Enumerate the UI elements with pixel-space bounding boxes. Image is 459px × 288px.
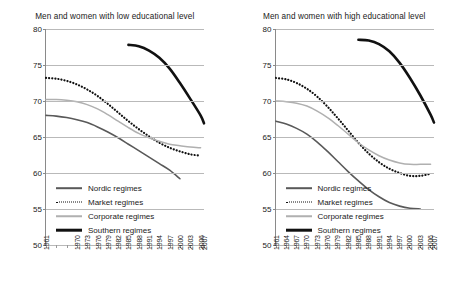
x-tick-label-1991: 1991 bbox=[375, 235, 382, 250]
gridline-y-70 bbox=[276, 101, 434, 102]
x-tick-label-1973: 1973 bbox=[84, 235, 91, 250]
legend-swatch-southern-icon bbox=[286, 226, 312, 234]
y-tick-mark bbox=[43, 101, 46, 102]
y-tick-mark bbox=[273, 29, 276, 30]
line-southern-regimes bbox=[128, 45, 204, 123]
y-tick-mark bbox=[43, 173, 46, 174]
legend-item-market: Market regimes bbox=[286, 195, 384, 209]
x-tick-label-1961: 1961 bbox=[43, 235, 50, 250]
y-tick-mark bbox=[43, 65, 46, 66]
y-tick-mark bbox=[273, 173, 276, 174]
chart-title-high: Men and women with high educational leve… bbox=[230, 12, 459, 21]
y-tick-mark bbox=[273, 101, 276, 102]
x-tick-label-1988: 1988 bbox=[365, 235, 372, 250]
x-tick-label-1964: 1964 bbox=[282, 235, 289, 250]
x-tick-label-1985: 1985 bbox=[354, 235, 361, 250]
legend-swatch-market-icon bbox=[286, 198, 312, 206]
x-tick-label-2003: 2003 bbox=[416, 235, 423, 250]
gridline-y-65 bbox=[46, 137, 204, 138]
y-tick-mark bbox=[43, 137, 46, 138]
gridline-y-75 bbox=[46, 65, 204, 66]
x-tick-label-1976: 1976 bbox=[94, 235, 101, 250]
legend-swatch-nordic-icon bbox=[56, 184, 82, 192]
line-market-regimes bbox=[276, 78, 431, 176]
legend-label-nordic: Nordic regimes bbox=[88, 184, 142, 193]
legend-item-nordic: Nordic regimes bbox=[286, 181, 384, 195]
legend-label-nordic: Nordic regimes bbox=[318, 184, 372, 193]
x-tick-label-1967: 1967 bbox=[293, 235, 300, 250]
gridline-y-75 bbox=[276, 65, 434, 66]
y-tick-label-60: 60 bbox=[263, 169, 272, 178]
line-corporate-regimes bbox=[276, 101, 431, 164]
x-tick-label-1994: 1994 bbox=[156, 235, 163, 250]
x-tick-label-2007: 2007 bbox=[201, 235, 208, 250]
legend-item-nordic: Nordic regimes bbox=[56, 181, 154, 195]
gridline-y-60 bbox=[46, 173, 204, 174]
x-tick-label-1976: 1976 bbox=[324, 235, 331, 250]
x-tick-label-2003: 2003 bbox=[187, 235, 194, 250]
y-tick-mark bbox=[273, 65, 276, 66]
legend-swatch-corporate-icon bbox=[286, 212, 312, 220]
x-tick-label-1994: 1994 bbox=[385, 235, 392, 250]
legend-item-market: Market regimes bbox=[56, 195, 154, 209]
y-tick-mark bbox=[43, 29, 46, 30]
legend-swatch-market-icon bbox=[56, 198, 82, 206]
x-tick-label-1979: 1979 bbox=[104, 235, 111, 250]
line-southern-regimes bbox=[358, 40, 434, 123]
y-tick-label-75: 75 bbox=[33, 61, 42, 70]
x-tick-label-1985: 1985 bbox=[125, 235, 132, 250]
legend-label-market: Market regimes bbox=[88, 198, 143, 207]
legend-label-corporate: Corporate regimes bbox=[88, 212, 154, 221]
y-tick-label-55: 55 bbox=[263, 205, 272, 214]
gridline-y-65 bbox=[276, 137, 434, 138]
x-tick-label-1997: 1997 bbox=[166, 235, 173, 250]
y-tick-label-80: 80 bbox=[33, 25, 42, 34]
x-tick-label-1997: 1997 bbox=[396, 235, 403, 250]
x-tick-label-1982: 1982 bbox=[344, 235, 351, 250]
legend-label-corporate: Corporate regimes bbox=[318, 212, 384, 221]
gridline-y-80 bbox=[276, 29, 434, 30]
legend-swatch-corporate-icon bbox=[56, 212, 82, 220]
y-tick-label-70: 70 bbox=[263, 97, 272, 106]
x-tick-mark bbox=[67, 245, 68, 248]
y-tick-label-50: 50 bbox=[263, 241, 272, 250]
x-tick-label-1970: 1970 bbox=[73, 235, 80, 250]
x-tick-label-1970: 1970 bbox=[303, 235, 310, 250]
gridline-y-80 bbox=[46, 29, 204, 30]
line-nordic-regimes bbox=[46, 115, 180, 178]
x-tick-label-1979: 1979 bbox=[334, 235, 341, 250]
y-tick-label-50: 50 bbox=[33, 241, 42, 250]
x-tick-label-1973: 1973 bbox=[313, 235, 320, 250]
plot-area-low: Nordic regimes Market regimes Corporate … bbox=[46, 29, 204, 245]
legend-label-southern: Southern regimes bbox=[318, 226, 381, 235]
x-tick-label-2007: 2007 bbox=[430, 235, 437, 250]
legend-swatch-southern-icon bbox=[56, 226, 82, 234]
y-tick-label-60: 60 bbox=[33, 169, 42, 178]
legend-item-corporate: Corporate regimes bbox=[286, 209, 384, 223]
y-tick-mark bbox=[273, 209, 276, 210]
gridline-y-55 bbox=[46, 209, 204, 210]
gridline-y-60 bbox=[276, 173, 434, 174]
legend-label-market: Market regimes bbox=[318, 198, 373, 207]
legend-item-corporate: Corporate regimes bbox=[56, 209, 154, 223]
x-tick-label-1988: 1988 bbox=[135, 235, 142, 250]
gridline-y-55 bbox=[276, 209, 434, 210]
x-tick-label-1991: 1991 bbox=[146, 235, 153, 250]
line-market-regimes bbox=[46, 78, 201, 156]
legend-swatch-nordic-icon bbox=[286, 184, 312, 192]
x-tick-label-2000: 2000 bbox=[406, 235, 413, 250]
y-tick-label-75: 75 bbox=[263, 61, 272, 70]
chart-pair: Men and women with low educational level… bbox=[0, 0, 459, 288]
x-tick-label-1961: 1961 bbox=[272, 235, 279, 250]
legend-label-southern: Southern regimes bbox=[88, 226, 151, 235]
chart-panel-low: Men and women with low educational level… bbox=[0, 0, 230, 288]
y-tick-mark bbox=[273, 137, 276, 138]
x-tick-label-1982: 1982 bbox=[115, 235, 122, 250]
y-tick-mark bbox=[43, 209, 46, 210]
x-tick-mark bbox=[56, 245, 57, 248]
plot-area-high: Nordic regimes Market regimes Corporate … bbox=[276, 29, 434, 245]
x-tick-label-2000: 2000 bbox=[176, 235, 183, 250]
y-tick-label-80: 80 bbox=[263, 25, 272, 34]
y-tick-label-55: 55 bbox=[33, 205, 42, 214]
y-tick-label-65: 65 bbox=[263, 133, 272, 142]
